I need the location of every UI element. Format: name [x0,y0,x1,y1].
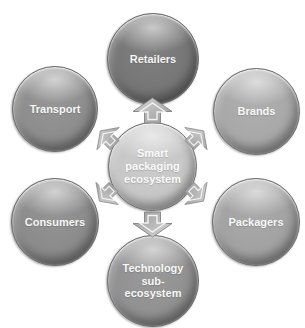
smart-packaging-ecosystem-diagram: Retailers Brands Packagers Technology su… [0,0,305,328]
arrow-down-icon [132,211,173,238]
node-transport-label: Transport [21,103,88,116]
node-technology-sub-ecosystem: Technology sub-ecosystem [107,235,199,327]
node-brands: Brands [213,68,300,155]
node-packagers: Packagers [212,178,300,266]
node-brands-label: Brands [223,105,291,118]
node-technology-sub-ecosystem-label: Technology sub-ecosystem [117,262,189,301]
node-center-label: Smart packaging ecosystem [118,147,188,186]
node-retailers-label: Retailers [117,53,189,66]
node-transport: Transport [12,66,98,152]
node-packagers-label: Packagers [222,216,291,229]
node-retailers: Retailers [107,13,199,105]
arrow-up-icon [132,97,173,124]
node-consumers-label: Consumers [21,216,90,229]
node-consumers: Consumers [11,178,99,266]
